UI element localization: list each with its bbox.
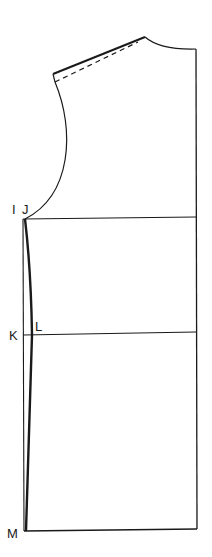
side-seam-line [25, 219, 32, 531]
armhole-curve [25, 82, 67, 219]
hem-line [24, 529, 197, 531]
label-l: L [35, 319, 42, 334]
shoulder-dashed-line [55, 42, 138, 82]
label-m: M [7, 526, 18, 541]
center-edge-line [196, 49, 197, 529]
waist-line [23, 332, 196, 335]
pattern-diagram: I J K L M [0, 0, 212, 557]
neckline-curve [145, 37, 196, 49]
shoulder-tip-edge [53, 74, 55, 82]
label-j: J [22, 202, 29, 217]
label-i: I [12, 202, 16, 217]
side-guide-line [23, 219, 24, 531]
shoulder-line [53, 37, 145, 74]
label-k: K [9, 328, 18, 343]
chest-line [23, 217, 196, 219]
